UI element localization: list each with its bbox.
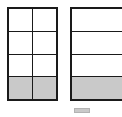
model-cell [9, 9, 33, 31]
model-cell-shaded [9, 77, 33, 99]
fraction-model-left [7, 7, 58, 101]
model-cell [33, 55, 56, 77]
model-cell [72, 32, 122, 54]
model-row [72, 77, 122, 99]
model-row [9, 32, 56, 55]
model-row [9, 77, 56, 99]
fraction-model-right [70, 7, 122, 101]
model-row [72, 9, 122, 32]
figure-canvas [0, 0, 122, 117]
model-cell-shaded [72, 77, 122, 99]
model-cell-shaded [33, 77, 56, 99]
model-cell [72, 55, 122, 77]
model-row [72, 32, 122, 55]
model-cell [33, 32, 56, 54]
model-cell [72, 9, 122, 31]
model-row [9, 9, 56, 32]
model-cell [9, 32, 33, 54]
model-row [72, 55, 122, 78]
legend-swatch [74, 108, 90, 113]
model-row [9, 55, 56, 78]
model-cell [33, 9, 56, 31]
model-cell [9, 55, 33, 77]
